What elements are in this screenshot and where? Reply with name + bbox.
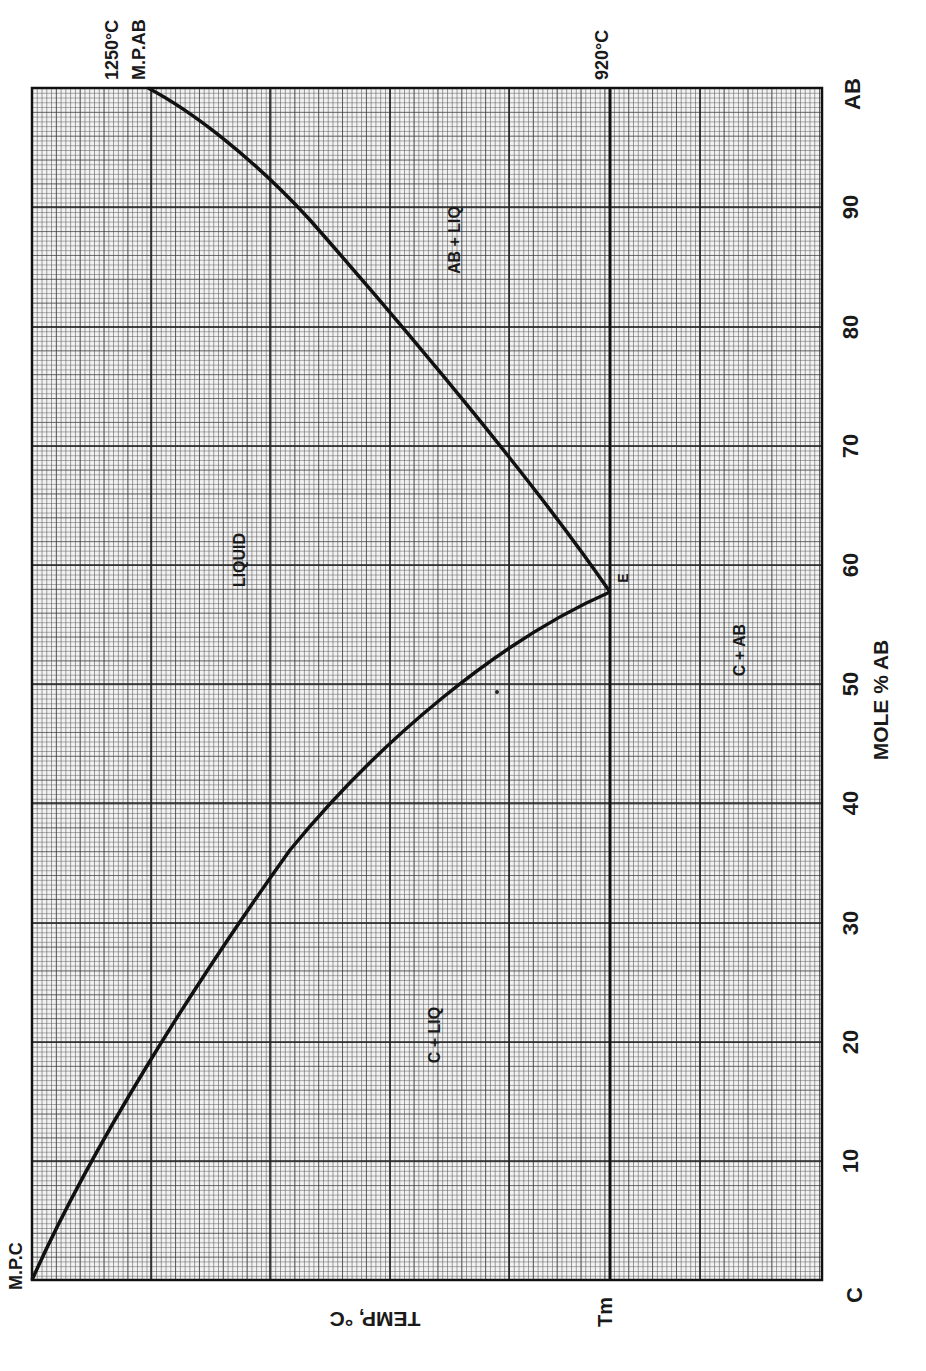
graph-paper-grid bbox=[32, 88, 822, 1280]
y-axis-title: TEMP, °C bbox=[330, 1308, 421, 1331]
region-c-liq: C + LIQ bbox=[426, 1007, 443, 1063]
mp-ab-label: M.P.AB bbox=[129, 19, 149, 80]
tick-90: 90 bbox=[838, 195, 863, 219]
stray-dot bbox=[495, 690, 499, 694]
eutectic-temp-label: 920°C bbox=[592, 30, 612, 80]
mp-c-label: M.P.C bbox=[6, 1242, 26, 1290]
phase-diagram: 10 20 30 40 50 60 70 80 90 AB C MOLE % A… bbox=[0, 0, 926, 1371]
tick-70: 70 bbox=[838, 434, 863, 458]
region-ab-liq: AB + LIQ bbox=[446, 206, 463, 274]
axis-end-ab: AB bbox=[840, 78, 865, 110]
tick-40: 40 bbox=[838, 791, 863, 815]
region-c-ab: C + AB bbox=[731, 624, 748, 676]
tm-label: Tm bbox=[594, 1297, 616, 1327]
region-liquid: LIQUID bbox=[231, 533, 248, 587]
axis-start-c: C bbox=[842, 1287, 867, 1303]
mp-ab-temp-label: 1250°C bbox=[102, 20, 122, 80]
tick-50: 50 bbox=[838, 672, 863, 696]
eutectic-point-label: E bbox=[615, 573, 631, 582]
x-axis-ticks: 10 20 30 40 50 60 70 80 90 AB C bbox=[838, 78, 867, 1303]
tick-20: 20 bbox=[838, 1030, 863, 1054]
tick-10: 10 bbox=[838, 1149, 863, 1173]
tick-60: 60 bbox=[838, 553, 863, 577]
tick-80: 80 bbox=[838, 315, 863, 339]
x-axis-title: MOLE % AB bbox=[869, 640, 892, 761]
tick-30: 30 bbox=[838, 911, 863, 935]
